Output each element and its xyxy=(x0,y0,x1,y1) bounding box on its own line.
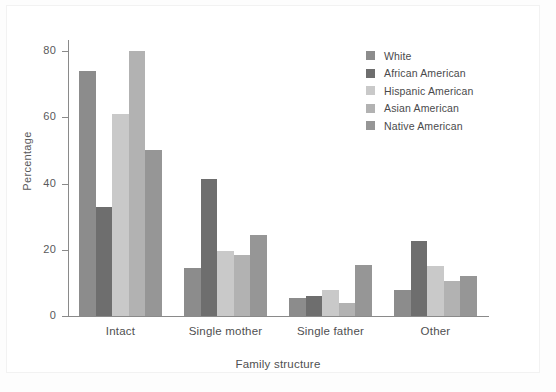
x-axis-title: Family structure xyxy=(68,358,488,370)
bar xyxy=(427,266,444,316)
y-axis-tick-label: 20 xyxy=(16,243,56,255)
bar xyxy=(394,290,411,317)
bar xyxy=(79,71,96,316)
x-axis-line xyxy=(68,316,489,317)
x-axis-tick-label: Single father xyxy=(271,325,391,337)
legend-item-label: Hispanic American xyxy=(384,85,474,97)
x-axis-tick-label: Other xyxy=(376,325,496,337)
x-axis-tick-label: Single mother xyxy=(166,325,286,337)
bar xyxy=(129,51,146,316)
bar xyxy=(112,114,129,316)
legend-item: White xyxy=(366,47,526,65)
bar xyxy=(217,251,234,316)
legend-swatch-icon xyxy=(366,104,375,113)
legend-item-label: White xyxy=(384,50,412,62)
y-axis-tick-labels: 020406080 xyxy=(12,0,56,392)
bar xyxy=(322,290,339,317)
legend-item: African American xyxy=(366,65,526,83)
legend-item-label: Native American xyxy=(384,120,463,132)
bar xyxy=(250,235,267,316)
chart-legend: WhiteAfrican AmericanHispanic AmericanAs… xyxy=(366,47,526,135)
legend-swatch-icon xyxy=(366,121,375,130)
legend-item-label: African American xyxy=(384,67,466,79)
y-axis-tick-label: 0 xyxy=(16,309,56,321)
y-axis-title: Percentage xyxy=(21,116,33,206)
y-axis-tick-label: 80 xyxy=(16,44,56,56)
bar xyxy=(339,303,356,316)
legend-swatch-icon xyxy=(366,69,375,78)
bar xyxy=(96,207,113,316)
bar xyxy=(234,255,251,316)
bar xyxy=(289,298,306,316)
legend-item: Asian American xyxy=(366,100,526,118)
legend-item: Hispanic American xyxy=(366,82,526,100)
bar xyxy=(145,150,162,316)
bar xyxy=(184,268,201,316)
legend-item: Native American xyxy=(366,117,526,135)
bar xyxy=(411,241,428,316)
legend-swatch-icon xyxy=(366,51,375,60)
legend-swatch-icon xyxy=(366,86,375,95)
y-axis-tick-mark xyxy=(62,316,68,317)
bar xyxy=(201,179,218,316)
bar xyxy=(306,296,323,316)
bar xyxy=(460,276,477,316)
x-axis-tick-label: Intact xyxy=(61,325,181,337)
bar xyxy=(444,281,461,316)
legend-item-label: Asian American xyxy=(384,102,459,114)
bar xyxy=(355,265,372,316)
chart-figure: 020406080 Percentage IntactSingle mother… xyxy=(0,0,556,392)
